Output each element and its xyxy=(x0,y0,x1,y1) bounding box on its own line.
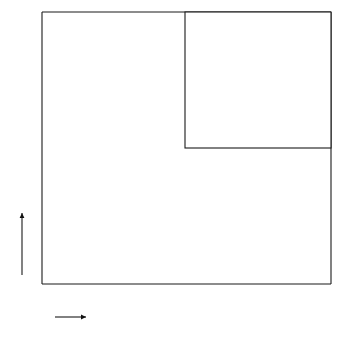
figure-canvas xyxy=(0,0,342,337)
inset-frame xyxy=(185,12,331,148)
scattering-chart xyxy=(0,0,342,337)
y-axis-title-arrowhead-icon xyxy=(20,213,25,218)
inset-panel xyxy=(185,12,331,148)
x-axis-title-arrowhead-icon xyxy=(81,315,86,320)
x-axis-title-group xyxy=(55,315,86,320)
y-axis-title-group xyxy=(20,213,25,275)
